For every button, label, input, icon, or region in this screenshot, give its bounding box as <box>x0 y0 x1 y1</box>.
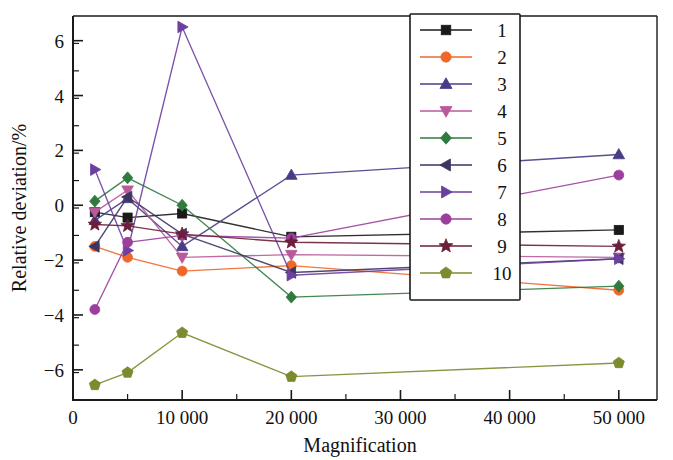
data-point <box>123 237 133 247</box>
legend-marker <box>441 214 451 224</box>
legend-marker <box>441 25 451 35</box>
x-tick-label: 20 000 <box>265 407 317 428</box>
legend-label: 1 <box>497 20 507 41</box>
legend-label: 6 <box>497 155 507 176</box>
x-tick-label: 30 000 <box>374 407 426 428</box>
legend-label: 4 <box>497 101 507 122</box>
legend-label: 3 <box>497 74 507 95</box>
x-tick-label: 40 000 <box>484 407 536 428</box>
x-tick-label: 10 000 <box>156 407 208 428</box>
data-point <box>614 170 624 180</box>
legend-label: 7 <box>497 182 507 203</box>
legend-label: 8 <box>497 209 507 230</box>
y-tick-label: 2 <box>55 140 65 161</box>
x-tick-label: 50 000 <box>593 407 645 428</box>
legend-label: 9 <box>497 236 507 257</box>
data-point <box>177 266 187 276</box>
data-point <box>614 225 623 234</box>
legend-label: 10 <box>493 263 512 284</box>
y-tick-label: 0 <box>55 195 65 216</box>
y-axis-title: Relative deviation/% <box>8 124 30 292</box>
y-tick-label: 4 <box>55 86 65 107</box>
relative-deviation-line-chart: 6420−2−4−6010 00020 00030 00040 00050 00… <box>0 0 673 460</box>
chart-figure: 6420−2−4−6010 00020 00030 00040 00050 00… <box>0 0 673 460</box>
data-point <box>90 305 100 315</box>
legend-marker <box>441 52 451 62</box>
x-axis-title: Magnification <box>303 434 416 457</box>
chart-legend: 12345678910 <box>410 14 520 300</box>
y-tick-label: 6 <box>55 31 65 52</box>
legend-label: 2 <box>497 47 507 68</box>
y-tick-label: −6 <box>44 360 64 381</box>
y-tick-label: −2 <box>44 250 64 271</box>
legend-label: 5 <box>497 128 507 149</box>
y-tick-label: −4 <box>44 305 65 326</box>
x-tick-label: 0 <box>68 407 78 428</box>
